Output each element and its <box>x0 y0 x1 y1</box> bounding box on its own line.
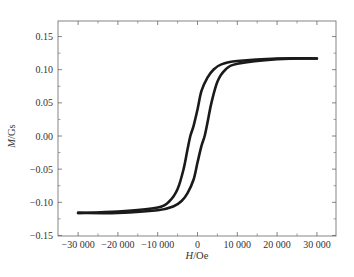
x-axis-title: H/Oe <box>185 250 209 261</box>
x-tick-label: −20 000 <box>101 239 134 250</box>
y-tick-label: 0.10 <box>36 64 54 75</box>
hysteresis-branch <box>78 58 317 213</box>
y-tick-label: −0.05 <box>30 164 53 175</box>
y-tick-label: −0.10 <box>30 197 53 208</box>
y-axis-title: M/Gs <box>6 124 17 148</box>
y-axis-ticks: −0.15−0.10−0.050.000.050.100.15 <box>30 31 336 241</box>
y-tick-label: 0.15 <box>36 31 54 42</box>
x-tick-label: 10 000 <box>224 239 252 250</box>
hysteresis-branch <box>78 58 317 213</box>
x-tick-label: −30 000 <box>62 239 95 250</box>
data-series <box>78 58 317 213</box>
x-axis-ticks: −30 000−20 000−10 000010 00020 00030 000 <box>62 21 331 250</box>
y-tick-label: 0.00 <box>36 131 54 142</box>
hysteresis-chart: −30 000−20 000−10 000010 00020 00030 000… <box>0 0 354 277</box>
x-tick-label: 30 000 <box>303 239 331 250</box>
y-tick-label: −0.15 <box>30 230 53 241</box>
x-tick-label: 0 <box>195 239 200 250</box>
x-tick-label: −10 000 <box>141 239 174 250</box>
x-tick-label: 20 000 <box>263 239 291 250</box>
y-tick-label: 0.05 <box>36 97 54 108</box>
plot-frame <box>58 21 336 236</box>
